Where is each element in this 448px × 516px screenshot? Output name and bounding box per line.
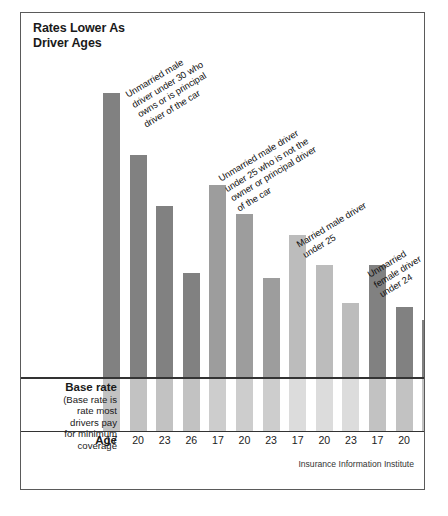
base-rate-title: Base rate: [25, 381, 117, 394]
age-tick-label: 23: [342, 434, 359, 446]
bar-below-base-rate: [422, 377, 425, 431]
bar: [209, 185, 226, 377]
bar: [130, 155, 147, 377]
annot-unmarried-male-under-30: Unmarried male driver under 30 who owns …: [124, 49, 218, 131]
bar: [183, 273, 200, 377]
source-attribution: Insurance Information Institute: [298, 459, 414, 469]
bar-below-base-rate: [236, 377, 253, 431]
bar-below-base-rate: [263, 377, 280, 431]
bar: [263, 278, 280, 377]
annot-unmarried-male-under-25: Unmarried male driver under 25 who is no…: [217, 125, 325, 215]
bar: [342, 303, 359, 377]
age-tick-label: 23: [156, 434, 173, 446]
age-tick-label: 20: [396, 434, 413, 446]
age-tick-label: 17: [289, 434, 306, 446]
bar-below-base-rate: [209, 377, 226, 431]
age-tick-label: 20: [236, 434, 253, 446]
age-tick-label: 20: [316, 434, 333, 446]
age-tick-label: 23: [422, 434, 425, 446]
bar-below-base-rate: [396, 377, 413, 431]
annot-married-male-under-25: Married male driver under 25: [295, 200, 375, 261]
bar-below-base-rate: [183, 377, 200, 431]
bar: [422, 320, 425, 377]
bar: [156, 206, 173, 377]
base-rate-rule: [21, 377, 424, 379]
bar: [236, 214, 253, 377]
chart-frame: Rates Lower As Driver Ages Unmarried mal…: [20, 12, 425, 490]
age-tick-label: 20: [130, 434, 147, 446]
age-tick-label: 23: [263, 434, 280, 446]
bar: [316, 265, 333, 377]
bar-below-base-rate: [342, 377, 359, 431]
age-tick-label: 17: [209, 434, 226, 446]
bar-below-base-rate: [316, 377, 333, 431]
bar-below-base-rate: [156, 377, 173, 431]
bar-below-base-rate: [369, 377, 386, 431]
bar-below-base-rate: [130, 377, 147, 431]
age-tick-label: 26: [183, 434, 200, 446]
age-tick-label: 17: [369, 434, 386, 446]
age-tick-label: 17: [103, 434, 120, 446]
bar-below-base-rate: [289, 377, 306, 431]
bar: [396, 307, 413, 377]
bar: [103, 93, 120, 377]
